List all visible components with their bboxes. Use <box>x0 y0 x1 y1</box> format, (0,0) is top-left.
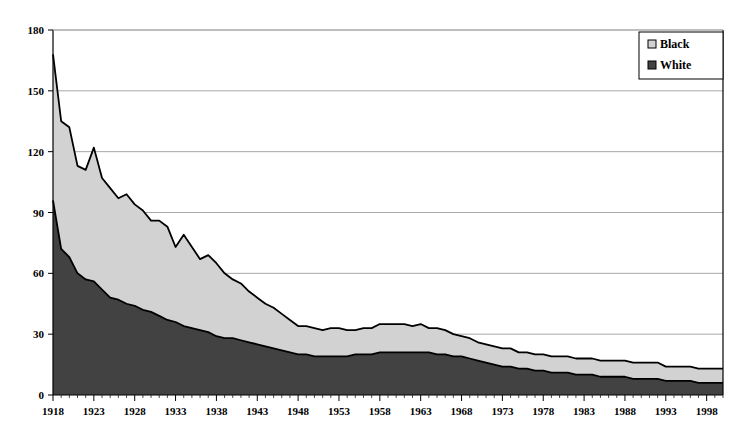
x-tick-label: 1983 <box>573 405 596 417</box>
legend-swatch-black <box>648 40 656 48</box>
y-tick-label: 90 <box>33 207 45 219</box>
y-tick-label: 0 <box>39 389 45 401</box>
y-tick-label: 180 <box>28 24 45 36</box>
x-tick-label: 1933 <box>165 405 188 417</box>
x-tick-label: 1953 <box>328 405 351 417</box>
x-tick-label: 1993 <box>655 405 678 417</box>
x-tick-label: 1963 <box>410 405 433 417</box>
x-tick-label: 1918 <box>42 405 65 417</box>
y-tick-label: 120 <box>28 146 45 158</box>
y-tick-label: 30 <box>33 328 45 340</box>
legend-label-black: Black <box>660 37 690 51</box>
x-tick-label: 1978 <box>532 405 555 417</box>
x-tick-label: 1973 <box>491 405 514 417</box>
y-tick-label: 60 <box>33 267 45 279</box>
legend-label-white: White <box>660 58 692 72</box>
legend-swatch-white <box>648 61 656 69</box>
y-tick-label: 150 <box>28 85 45 97</box>
chart-figure: 0306090120150180 19181923192819331938194… <box>0 0 747 446</box>
x-tick-label: 1943 <box>246 405 269 417</box>
chart-legend: BlackWhite <box>639 32 723 79</box>
x-tick-label: 1998 <box>696 405 719 417</box>
x-tick-label: 1958 <box>369 405 392 417</box>
x-axis-ticks: 1918192319281933193819431948195319581963… <box>42 395 723 417</box>
x-tick-label: 1948 <box>287 405 310 417</box>
x-tick-label: 1923 <box>83 405 106 417</box>
y-axis-ticks: 0306090120150180 <box>28 24 54 401</box>
x-tick-label: 1938 <box>205 405 228 417</box>
x-tick-label: 1928 <box>124 405 147 417</box>
x-tick-label: 1968 <box>451 405 474 417</box>
stacked-area-chart: 0306090120150180 19181923192819331938194… <box>0 0 747 446</box>
x-tick-label: 1988 <box>614 405 637 417</box>
